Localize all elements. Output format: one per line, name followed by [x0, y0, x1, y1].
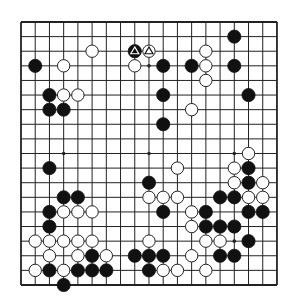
black-stone [242, 88, 255, 101]
white-stone [57, 89, 69, 101]
black-stone [71, 191, 84, 204]
black-stone [43, 205, 56, 218]
black-stone [142, 249, 155, 262]
star-point [147, 64, 151, 68]
white-stone [185, 250, 197, 262]
black-stone [71, 264, 84, 277]
star-point [147, 152, 151, 156]
black-stone [157, 205, 170, 218]
black-stone [157, 59, 170, 72]
black-stone [157, 88, 170, 101]
black-stone [29, 59, 42, 72]
black-stone [57, 278, 70, 291]
white-stone [43, 235, 55, 247]
black-stone [142, 176, 155, 189]
black-stone [185, 59, 198, 72]
black-stone [213, 220, 226, 233]
white-stone [57, 60, 69, 72]
black-stone [256, 205, 269, 218]
black-stone [86, 264, 99, 277]
black-stone [128, 249, 141, 262]
white-stone [57, 235, 69, 247]
white-stone [214, 235, 226, 247]
white-stone [257, 191, 269, 203]
black-stone [43, 220, 56, 233]
go-board-canvas[interactable] [0, 0, 290, 308]
black-stone [43, 103, 56, 116]
white-stone [185, 220, 197, 232]
black-stone [242, 176, 255, 189]
star-point [62, 152, 66, 156]
white-stone [57, 206, 69, 218]
black-stone [157, 249, 170, 262]
white-stone [86, 45, 98, 57]
white-stone [200, 60, 212, 72]
black-stone [86, 249, 99, 262]
black-stone [142, 264, 155, 277]
star-point [233, 239, 237, 243]
white-stone [29, 264, 41, 276]
black-stone [57, 103, 70, 116]
black-stone [100, 264, 113, 277]
black-stone [213, 249, 226, 262]
white-stone [200, 264, 212, 276]
white-stone [200, 45, 212, 57]
white-stone [185, 206, 197, 218]
black-stone [228, 220, 241, 233]
white-stone [171, 191, 183, 203]
white-stone [57, 264, 69, 276]
white-stone [171, 162, 183, 174]
black-stone [228, 59, 241, 72]
black-stone [43, 162, 56, 175]
black-stone [199, 205, 212, 218]
white-stone [185, 103, 197, 115]
white-stone [100, 250, 112, 262]
black-stone [228, 191, 241, 204]
white-stone [29, 235, 41, 247]
star-point [233, 152, 237, 156]
black-stone [43, 88, 56, 101]
black-stone [242, 162, 255, 175]
white-stone [242, 191, 254, 203]
white-stone [143, 191, 155, 203]
black-stone [213, 191, 226, 204]
white-stone [171, 264, 183, 276]
white-stone [200, 235, 212, 247]
black-stone [57, 191, 70, 204]
black-stone [242, 205, 255, 218]
white-stone [86, 206, 98, 218]
white-stone [228, 162, 240, 174]
black-stone [157, 118, 170, 131]
white-stone [228, 177, 240, 189]
black-stone [242, 235, 255, 248]
white-stone [157, 191, 169, 203]
white-stone [143, 235, 155, 247]
white-stone [72, 206, 84, 218]
black-stone [43, 264, 56, 277]
black-stone [199, 220, 212, 233]
white-stone [257, 177, 269, 189]
white-stone [72, 89, 84, 101]
white-stone [242, 147, 254, 159]
white-stone [200, 74, 212, 86]
go-board[interactable] [0, 0, 290, 308]
white-stone [72, 235, 84, 247]
black-stone [228, 30, 241, 43]
black-stone [228, 249, 241, 262]
white-stone [86, 235, 98, 247]
white-stone [72, 250, 84, 262]
white-stone [129, 60, 141, 72]
white-stone [43, 250, 55, 262]
white-stone [157, 264, 169, 276]
